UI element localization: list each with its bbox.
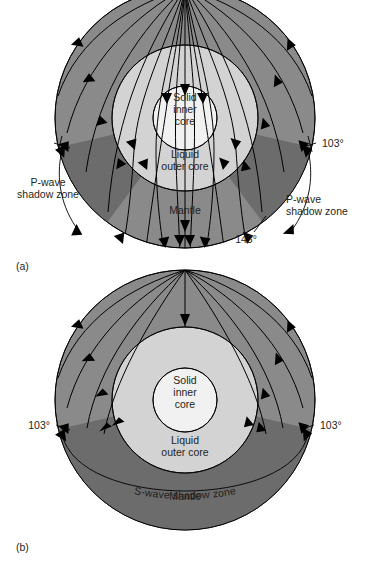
panel-b-angle-103-left: 103° [28, 419, 50, 431]
panel-b-inner-core-label-line3: core [175, 398, 196, 410]
panel-b: Solid inner core Liquid outer core Mantl… [16, 270, 342, 553]
panel-a-outer-core-label-line2: outer core [161, 160, 208, 172]
panel-a-shadow-left-line1: P-wave [30, 176, 65, 188]
panel-a-shadow-label-right: P-wave shadow zone [286, 193, 348, 217]
panel-a-angle-143: 143° [235, 233, 257, 245]
panel-a: Solid inner core Liquid outer core Mantl… [16, 0, 348, 272]
panel-a-inner-core-label-line2: inner [173, 103, 197, 115]
panel-a-shadow-right-line2: shadow zone [286, 205, 348, 217]
seismic-shadow-zone-figure: Solid inner core Liquid outer core Mantl… [0, 0, 366, 564]
panel-a-angle-103-right: 103° [322, 137, 344, 149]
panel-b-outer-core-label-line2: outer core [161, 446, 208, 458]
panel-a-inner-core-label-line1: Solid [173, 91, 197, 103]
panel-a-letter: (a) [16, 260, 29, 272]
panel-b-letter: (b) [16, 541, 29, 553]
panel-b-inner-core-label-line2: inner [173, 386, 197, 398]
panel-a-inner-core-label-line3: core [175, 115, 196, 127]
panel-b-angle-103-right: 103° [320, 419, 342, 431]
figure-canvas: Solid inner core Liquid outer core Mantl… [0, 0, 366, 564]
panel-b-inner-core-label-line1: Solid [173, 374, 197, 386]
panel-b-outer-core-label-line1: Liquid [171, 434, 199, 446]
panel-a-mantle-label: Mantle [169, 204, 201, 216]
panel-a-shadow-right-line1: P-wave [286, 193, 321, 205]
panel-a-shadow-left-line2: shadow zone [17, 188, 79, 200]
panel-a-shadow-label-left: P-wave shadow zone [17, 176, 79, 200]
panel-a-outer-core-label-line1: Liquid [171, 148, 199, 160]
